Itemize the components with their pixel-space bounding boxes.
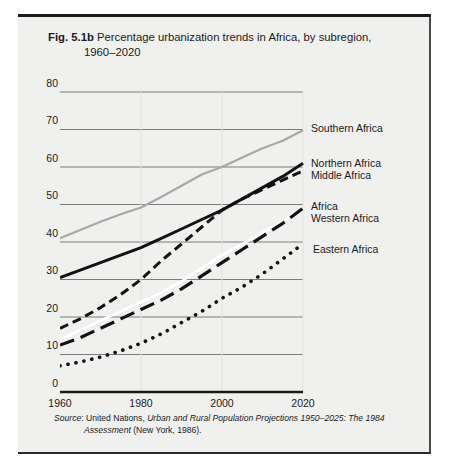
- ytick-label-40: 40: [34, 227, 58, 239]
- figure-title-line1: Percentage urbanization trends in Africa…: [94, 31, 372, 43]
- ytick-label-80: 80: [34, 77, 58, 89]
- xtick-label-1960: 1960: [40, 397, 80, 409]
- series-label-northern-africa: Northern Africa: [311, 157, 381, 169]
- source-tail: (New York, 1986).: [131, 425, 202, 435]
- series-label-southern-africa: Southern Africa: [311, 122, 383, 134]
- source-publication-cont: Assessment: [84, 425, 131, 435]
- panel-top-rule: [18, 14, 431, 17]
- source-publication: Urban and Rural Population Projections 1…: [147, 413, 384, 423]
- ytick-label-30: 30: [34, 264, 58, 276]
- ytick-label-10: 10: [34, 339, 58, 351]
- figure-title: Fig. 5.1b Percentage urbanization trends…: [48, 30, 418, 59]
- xtick-label-1980: 1980: [121, 397, 161, 409]
- source-line2: Assessment (New York, 1986).: [54, 425, 414, 437]
- xtick-label-2020: 2020: [283, 397, 323, 409]
- series-line-eastern-africa: [60, 244, 303, 366]
- ytick-label-70: 70: [34, 114, 58, 126]
- series-label-western-africa: Western Africa: [311, 212, 379, 224]
- series-label-eastern-africa: Eastern Africa: [313, 243, 378, 255]
- figure-panel: Fig. 5.1b Percentage urbanization trends…: [18, 14, 431, 454]
- chart-plot-area: [60, 74, 325, 394]
- series-line-northern-africa: [60, 171, 303, 328]
- ytick-label-60: 60: [34, 152, 58, 164]
- series-line-middle-africa: [60, 163, 303, 277]
- ytick-label-50: 50: [34, 189, 58, 201]
- source-note: Source: United Nations, Urban and Rural …: [54, 413, 414, 436]
- xtick-label-2000: 2000: [202, 397, 242, 409]
- series-label-africa: Africa: [311, 200, 338, 212]
- ytick-label-20: 20: [34, 302, 58, 314]
- source-label: Source: [54, 413, 81, 423]
- source-colon: : United Nations,: [81, 413, 147, 423]
- figure-title-line2: 1960–2020: [48, 45, 418, 60]
- series-label-middle-africa: Middle Africa: [311, 169, 371, 181]
- ytick-label-0: 0: [34, 377, 58, 389]
- figure-number: Fig. 5.1b: [48, 31, 94, 43]
- line-chart-svg: [60, 74, 325, 394]
